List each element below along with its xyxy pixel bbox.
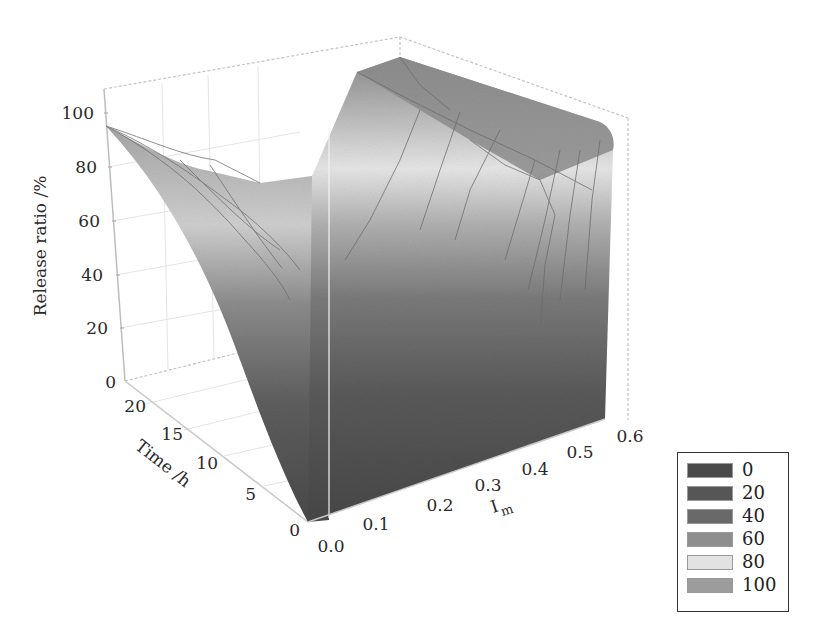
legend-swatch <box>687 555 733 570</box>
svg-text:0.6: 0.6 <box>616 426 643 446</box>
legend-swatch <box>687 509 733 524</box>
svg-text:0.1: 0.1 <box>362 514 389 534</box>
legend-swatch <box>687 578 733 593</box>
legend-swatch <box>687 532 733 547</box>
legend-item: 100 <box>687 577 776 593</box>
legend-swatch <box>687 463 733 478</box>
svg-text:m: m <box>499 501 515 519</box>
svg-text:20: 20 <box>124 396 146 416</box>
im-axis-label: I m <box>488 492 515 522</box>
svg-text:0: 0 <box>289 520 300 540</box>
z-axis-label: Release ratio /% <box>30 176 50 317</box>
legend-item: 60 <box>687 531 765 547</box>
svg-text:20: 20 <box>86 318 108 338</box>
svg-text:100: 100 <box>62 103 94 123</box>
legend-item: 40 <box>687 508 765 524</box>
legend-item: 0 <box>687 462 753 478</box>
svg-text:60: 60 <box>78 211 100 231</box>
svg-text:0.0: 0.0 <box>317 536 344 556</box>
svg-text:5: 5 <box>245 484 256 504</box>
surface <box>106 57 614 522</box>
z-tick-marks <box>104 113 124 328</box>
legend-item: 80 <box>687 554 765 570</box>
svg-text:80: 80 <box>75 157 97 177</box>
legend: 0 20 40 60 80 100 <box>677 452 789 612</box>
svg-text:0.2: 0.2 <box>426 495 453 515</box>
svg-text:0: 0 <box>105 372 116 392</box>
svg-text:40: 40 <box>81 265 103 285</box>
svg-text:10: 10 <box>196 453 218 473</box>
svg-text:0.3: 0.3 <box>474 475 501 495</box>
svg-text:0.4: 0.4 <box>521 459 548 479</box>
legend-swatch <box>687 486 733 501</box>
svg-text:0.5: 0.5 <box>566 442 593 462</box>
legend-item: 20 <box>687 485 765 501</box>
svg-text:15: 15 <box>161 424 183 444</box>
